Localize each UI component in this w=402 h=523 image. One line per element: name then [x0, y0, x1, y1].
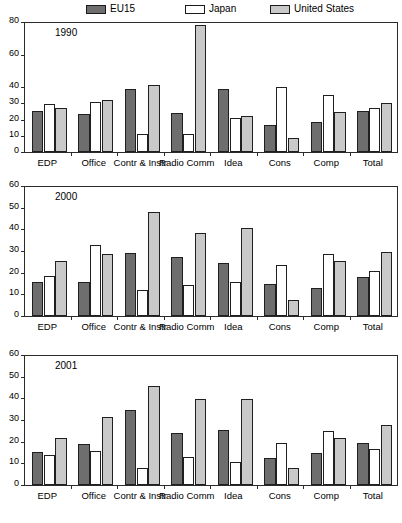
legend-item-united-states: United States	[270, 4, 354, 14]
legend-swatch-japan	[185, 5, 205, 14]
bar-group	[357, 23, 392, 152]
bar	[264, 458, 275, 485]
bar	[195, 25, 206, 152]
bar-group	[264, 23, 299, 152]
y-axis-2000: 0102030405060	[0, 186, 24, 318]
y-tick-label: 20	[9, 114, 19, 123]
bar-group	[264, 356, 299, 485]
legend-item-japan: Japan	[185, 4, 236, 14]
bar-group	[78, 187, 113, 316]
x-tick-label: Total	[363, 491, 383, 501]
bar-group	[32, 23, 67, 152]
y-tick-label: 30	[9, 245, 19, 254]
bar	[32, 282, 43, 316]
x-tick-mark	[350, 317, 351, 320]
bar	[102, 417, 113, 485]
x-tick-label: Radio Comm	[159, 322, 214, 332]
legend-label-united-states: United States	[294, 4, 354, 14]
x-tick-mark	[257, 153, 258, 156]
bar	[148, 85, 159, 152]
bar	[32, 111, 43, 152]
bar	[44, 455, 55, 485]
x-tick-mark	[71, 153, 72, 156]
bar-series-2001	[25, 356, 397, 485]
y-tick: 50	[0, 377, 24, 378]
bar-group	[311, 356, 346, 485]
bar	[334, 261, 345, 316]
y-tick: 60	[0, 355, 24, 356]
x-tick-label: Radio Comm	[159, 491, 214, 501]
bar	[218, 89, 229, 152]
bar	[369, 271, 380, 316]
y-tick-label: 60	[9, 349, 19, 358]
x-axis-2000: EDPOfficeContr & InstrRadio CommIdeaCons…	[24, 317, 398, 341]
x-tick-label: Office	[81, 158, 106, 168]
x-tick-label: Cons	[269, 491, 291, 501]
bar	[78, 114, 89, 152]
bar	[230, 282, 241, 316]
x-tick-label: EDP	[37, 491, 57, 501]
x-tick-label: Radio Comm	[159, 158, 214, 168]
bar	[137, 134, 148, 152]
bar-group	[218, 187, 253, 316]
bar	[55, 438, 66, 485]
bar	[288, 300, 299, 316]
bar-group	[218, 356, 253, 485]
y-tick-label: 0	[14, 146, 19, 155]
bar	[264, 284, 275, 316]
bar	[183, 457, 194, 485]
y-tick-label: 80	[9, 16, 19, 25]
bar	[241, 116, 252, 152]
bar-group	[218, 23, 253, 152]
bar-group	[171, 23, 206, 152]
bar	[44, 276, 55, 316]
x-tick-mark	[257, 317, 258, 320]
bar-group	[32, 187, 67, 316]
bar	[137, 468, 148, 485]
x-tick-mark	[210, 153, 211, 156]
y-tick: 40	[0, 398, 24, 399]
x-tick-label: Cons	[269, 322, 291, 332]
y-tick: 20	[0, 120, 24, 121]
y-tick-label: 0	[14, 479, 19, 488]
y-tick: 0	[0, 152, 24, 153]
y-tick: 30	[0, 103, 24, 104]
bar	[357, 277, 368, 316]
y-tick-label: 30	[9, 414, 19, 423]
x-tick-label: EDP	[37, 158, 57, 168]
x-tick-mark	[303, 153, 304, 156]
bar	[171, 257, 182, 316]
bar	[357, 111, 368, 152]
bar	[32, 452, 43, 485]
x-tick-label: Comp	[314, 158, 339, 168]
x-tick-mark	[164, 486, 165, 489]
chart-panel-2000: 0102030405060 2000 EDPOfficeContr & Inst…	[0, 186, 402, 341]
bar	[276, 87, 287, 152]
plot-area-2000: 2000	[24, 186, 398, 317]
y-tick-label: 30	[9, 97, 19, 106]
x-tick-label: Office	[81, 491, 106, 501]
y-tick: 50	[0, 208, 24, 209]
bar	[218, 263, 229, 316]
bar-series-2000	[25, 187, 397, 316]
y-tick-label: 10	[9, 288, 19, 297]
y-tick-label: 20	[9, 436, 19, 445]
y-axis-2001: 0102030405060	[0, 355, 24, 487]
y-tick: 10	[0, 294, 24, 295]
y-tick: 0	[0, 485, 24, 486]
plot-area-2001: 2001	[24, 355, 398, 486]
panel-title-2001: 2001	[55, 360, 77, 371]
bar	[323, 431, 334, 485]
x-tick-mark	[71, 317, 72, 320]
bar	[148, 386, 159, 485]
bar	[334, 438, 345, 485]
bar	[195, 399, 206, 485]
bar	[125, 410, 136, 485]
bar	[55, 108, 66, 152]
x-tick-label: EDP	[37, 322, 57, 332]
bar-group	[125, 187, 160, 316]
bar-chart-figure: EU15 Japan United States 0102030406080 1…	[0, 0, 402, 523]
bar	[369, 108, 380, 152]
y-tick-label: 60	[9, 180, 19, 189]
y-tick-label: 40	[9, 223, 19, 232]
